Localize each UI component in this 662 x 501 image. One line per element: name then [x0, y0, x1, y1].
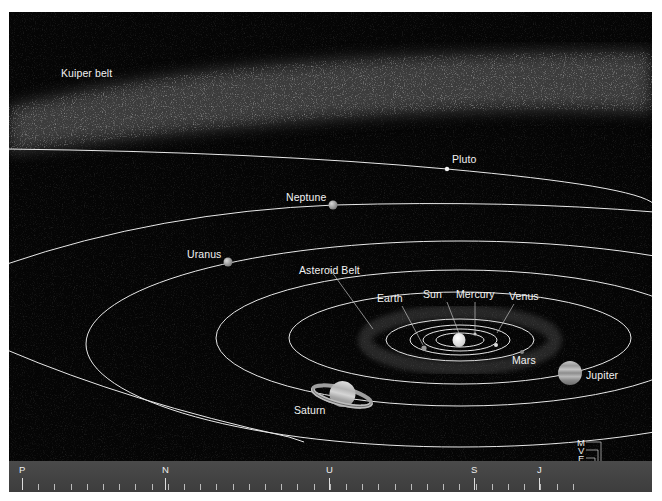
- scale-tick: [281, 484, 282, 490]
- mercury-label: Mercury: [456, 289, 495, 300]
- scale-tick: [265, 484, 266, 490]
- pluto-icon: [445, 167, 449, 171]
- scale-tick: [119, 484, 120, 490]
- scale-tick: [492, 484, 493, 490]
- scale-marker-neptune: N: [162, 465, 169, 475]
- scale-tick: [200, 484, 201, 490]
- scale-tick: [103, 484, 104, 490]
- scale-tick: [168, 484, 169, 490]
- neptune-label: Neptune: [286, 192, 326, 203]
- scale-marker-uranus: U: [326, 465, 333, 475]
- scale-major-tick: [539, 478, 540, 490]
- scale-tick: [443, 484, 444, 490]
- earth-icon: [421, 345, 426, 350]
- uranus-label: Uranus: [187, 249, 221, 260]
- scale-marker-jupiter: J: [537, 465, 542, 475]
- orbit-scene: [9, 12, 652, 492]
- scale-major-tick: [22, 478, 23, 490]
- kuiper-belt-label: Kuiper belt: [61, 68, 112, 79]
- scale-tick: [135, 484, 136, 490]
- jupiter-label: Jupiter: [586, 370, 618, 381]
- scale-tick: [573, 484, 574, 490]
- mars-label: Mars: [512, 355, 536, 366]
- scale-tick: [184, 484, 185, 490]
- scale-tick: [459, 484, 460, 490]
- scale-tick: [54, 484, 55, 490]
- mercury-icon: [473, 332, 476, 335]
- scale-marker-pluto: P: [19, 465, 25, 475]
- scale-tick: [557, 484, 558, 490]
- distance-scale-bar: P N U S J: [9, 461, 652, 492]
- scale-tick: [395, 484, 396, 490]
- scale-tick: [476, 484, 477, 490]
- solar-system-diagram: Kuiper belt Pluto Neptune Uranus Asteroi…: [9, 12, 652, 492]
- scale-tick: [152, 484, 153, 490]
- scale-marker-saturn: S: [471, 465, 477, 475]
- scale-tick: [71, 484, 72, 490]
- scale-tick: [297, 484, 298, 490]
- uranus-icon: [224, 258, 233, 267]
- saturn-label: Saturn: [294, 405, 326, 416]
- asteroid-belt-label: Asteroid Belt: [299, 265, 360, 276]
- scale-tick: [427, 484, 428, 490]
- scale-tick: [314, 484, 315, 490]
- scale-tick: [524, 484, 525, 490]
- jupiter-icon: [558, 361, 582, 385]
- scale-tick: [330, 484, 331, 490]
- scale-tick: [87, 484, 88, 490]
- scale-major-tick: [165, 478, 166, 490]
- scale-major-tick: [329, 478, 330, 490]
- scale-major-tick: [474, 478, 475, 490]
- scale-tick: [216, 484, 217, 490]
- scale-tick: [233, 484, 234, 490]
- scale-tick: [346, 484, 347, 490]
- scale-tick: [508, 484, 509, 490]
- sun-label: Sun: [423, 289, 442, 300]
- scale-tick: [362, 484, 363, 490]
- scale-tick: [540, 484, 541, 490]
- pluto-label: Pluto: [452, 154, 476, 165]
- sun-icon: [453, 333, 466, 347]
- scale-tick: [378, 484, 379, 490]
- scale-tick: [38, 484, 39, 490]
- scale-tick: [249, 484, 250, 490]
- scale-tick: [411, 484, 412, 490]
- earth-label: Earth: [377, 293, 403, 304]
- neptune-icon: [329, 201, 338, 210]
- venus-label: Venus: [509, 291, 539, 302]
- venus-icon: [494, 343, 498, 347]
